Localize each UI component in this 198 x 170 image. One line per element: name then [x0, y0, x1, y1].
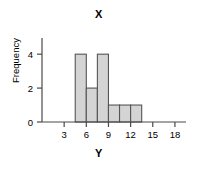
y-tick-label: 4 — [28, 49, 33, 60]
x-tick-label: 12 — [125, 129, 136, 140]
x-tick-label: 3 — [62, 129, 67, 140]
x-tick-label: 18 — [170, 129, 181, 140]
x-tick-label: 15 — [147, 129, 158, 140]
x-tick-label: 6 — [84, 129, 89, 140]
histogram-bar — [131, 105, 142, 122]
histogram-bar — [86, 88, 97, 122]
plot-area: 369121518 024 — [0, 0, 198, 170]
bars-group — [75, 54, 141, 122]
x-axis-label: Y — [0, 147, 198, 159]
histogram-bar — [108, 105, 119, 122]
y-axis-ticks: 024 — [28, 49, 42, 128]
histogram-bar — [120, 105, 131, 122]
y-tick-label: 0 — [28, 117, 33, 128]
x-axis-ticks: 369121518 — [62, 122, 181, 140]
histogram-figure: X Frequency 369121518 024 Y — [0, 0, 198, 170]
histogram-bar — [97, 54, 108, 122]
y-tick-label: 2 — [28, 83, 33, 94]
x-tick-label: 9 — [106, 129, 111, 140]
histogram-bar — [75, 54, 86, 122]
